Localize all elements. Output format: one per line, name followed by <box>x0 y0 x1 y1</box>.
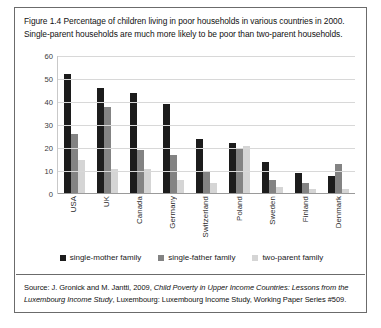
gridline <box>58 56 355 57</box>
bar <box>335 164 342 194</box>
x-axis-label: Denmark <box>322 196 355 250</box>
bar <box>203 171 210 194</box>
gridline <box>58 79 355 80</box>
source-prefix: Source: J. Gronick and M. Jantti, 2009, <box>24 283 154 292</box>
legend-item: single-father family <box>158 253 235 262</box>
y-axis-tick: 50 <box>45 75 53 84</box>
x-axis-label: Switzerland <box>189 196 222 250</box>
x-axis-label: UK <box>90 196 123 250</box>
bar <box>295 173 302 194</box>
bar <box>163 104 170 194</box>
bar <box>71 134 78 194</box>
bar <box>170 155 177 194</box>
x-axis-label: Finland <box>289 196 322 250</box>
x-axis-labels: USAUKCanadaGermanySwitzerlandPolandSwede… <box>57 196 355 250</box>
bar <box>130 93 137 194</box>
x-axis-label: Poland <box>223 196 256 250</box>
y-axis-tick: 0 <box>49 190 53 199</box>
legend-label: single-father family <box>168 253 235 262</box>
legend-label: single-mother family <box>70 253 142 262</box>
legend-item: single-mother family <box>60 253 142 262</box>
legend-swatch <box>158 255 164 261</box>
legend-swatch <box>60 255 66 261</box>
legend-item: two-parent family <box>252 253 323 262</box>
y-axis-tick: 10 <box>45 167 53 176</box>
x-axis-label: Canada <box>123 196 156 250</box>
gridline <box>58 171 355 172</box>
legend-swatch <box>252 255 258 261</box>
gridline <box>58 193 355 194</box>
x-axis-label: USA <box>57 196 90 250</box>
figure-caption: Figure 1.4 Percentage of children living… <box>24 15 360 41</box>
y-axis-tick: 60 <box>45 52 53 61</box>
bar <box>269 180 276 194</box>
bar <box>78 160 85 195</box>
bar <box>177 180 184 194</box>
source-suffix: , Luxembourg: Luxembourg Income Study, W… <box>112 295 346 304</box>
y-axis-tick: 40 <box>45 98 53 107</box>
y-axis: 0102030405060 <box>33 56 55 194</box>
source-citation: Source: J. Gronick and M. Jantti, 2009, … <box>24 282 360 306</box>
y-axis-tick: 30 <box>45 121 53 130</box>
bar <box>262 162 269 194</box>
y-axis-tick: 20 <box>45 144 53 153</box>
bar <box>104 107 111 194</box>
bar <box>243 146 250 194</box>
legend-source-divider <box>16 274 365 275</box>
bar <box>137 150 144 194</box>
bar <box>111 169 118 194</box>
bar <box>328 176 335 194</box>
x-axis-label: Sweden <box>256 196 289 250</box>
gridline <box>58 125 355 126</box>
bar <box>97 88 104 194</box>
bar <box>64 74 71 194</box>
bar <box>229 143 236 194</box>
gridline <box>58 148 355 149</box>
legend-label: two-parent family <box>262 253 323 262</box>
figure-frame: Figure 1.4 Percentage of children living… <box>14 7 367 313</box>
bar <box>144 169 151 194</box>
chart-grid <box>57 56 355 194</box>
chart-plot-area: 0102030405060 <box>33 56 355 194</box>
gridline <box>58 102 355 103</box>
chart-legend: single-mother familysingle-father family… <box>15 253 368 262</box>
x-axis-label: Germany <box>156 196 189 250</box>
